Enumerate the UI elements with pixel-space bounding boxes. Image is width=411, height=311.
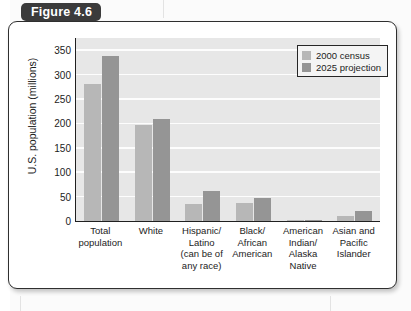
- x-axis-label-line: Latino: [176, 237, 227, 249]
- legend-item: 2000 census: [302, 49, 381, 61]
- bar: [84, 84, 101, 221]
- y-axis-title: U.S. population (millions): [26, 41, 38, 191]
- x-axis-label-line: Total: [75, 225, 126, 237]
- x-axis-label-line: American: [278, 225, 329, 237]
- chart-legend: 2000 census2025 projection: [297, 45, 388, 77]
- x-axis-category-label: Asian andPacificIslander: [328, 225, 379, 260]
- bar: [185, 204, 202, 221]
- y-axis-tick-label: 250: [54, 94, 71, 105]
- x-axis-category-label: AmericanIndian/AlaskaNative: [278, 225, 329, 271]
- x-axis-label-line: population: [75, 237, 126, 249]
- bar: [337, 216, 354, 221]
- y-axis-tick-label: 150: [54, 142, 71, 153]
- bar: [102, 56, 119, 221]
- y-axis-tick-label: 100: [54, 167, 71, 178]
- x-axis-category-label: Hispanic/Latino(can be ofany race): [176, 225, 227, 271]
- bar: [135, 125, 152, 221]
- x-axis-label-line: (can be of: [176, 248, 227, 260]
- y-axis-tick-label: 50: [60, 191, 71, 202]
- x-axis-label-line: Black/: [227, 225, 278, 237]
- x-axis-label-line: Indian/: [278, 237, 329, 249]
- legend-swatch-icon: [302, 63, 311, 72]
- bar: [203, 191, 220, 221]
- y-axis-tick-label: 0: [65, 216, 71, 227]
- legend-swatch-icon: [302, 51, 311, 60]
- page-rule-bottom-left: [20, 296, 21, 311]
- y-axis-tick-label: 300: [54, 69, 71, 80]
- figure-number-tab: Figure 4.6: [21, 3, 101, 21]
- page-rule-bottom-right: [330, 296, 331, 311]
- page-rule-top: [163, 0, 164, 18]
- bar: [153, 119, 170, 221]
- x-axis-label-line: African: [227, 237, 278, 249]
- x-axis-category-label: White: [126, 225, 177, 237]
- x-axis-label-line: White: [126, 225, 177, 237]
- x-axis-label-line: Islander: [328, 248, 379, 260]
- x-axis-label-line: Asian and: [328, 225, 379, 237]
- y-axis-tick-label: 350: [54, 45, 71, 56]
- x-axis-labels: TotalpopulationWhiteHispanic/Latino(can …: [75, 225, 379, 287]
- bar-chart: U.S. population (millions) 0501001502002…: [9, 22, 398, 290]
- x-axis-label-line: Pacific: [328, 237, 379, 249]
- x-axis-label-line: Native: [278, 260, 329, 272]
- y-axis-tick-label: 200: [54, 118, 71, 129]
- x-axis-label-line: Alaska: [278, 248, 329, 260]
- x-axis-label-line: American: [227, 248, 278, 260]
- figure-frame: U.S. population (millions) 0501001502002…: [8, 21, 397, 289]
- x-axis-category-label: Black/AfricanAmerican: [227, 225, 278, 260]
- bar: [305, 220, 322, 221]
- legend-label: 2000 census: [316, 50, 370, 61]
- legend-item: 2025 projection: [302, 61, 381, 73]
- x-axis-label-line: any race): [176, 260, 227, 272]
- x-axis-category-label: Totalpopulation: [75, 225, 126, 248]
- bar: [287, 220, 304, 221]
- bar: [355, 211, 372, 221]
- bar: [254, 198, 271, 221]
- bar: [236, 203, 253, 221]
- legend-label: 2025 projection: [316, 62, 381, 73]
- x-axis-label-line: Hispanic/: [176, 225, 227, 237]
